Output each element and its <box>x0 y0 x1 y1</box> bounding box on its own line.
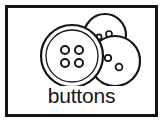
button-bottom-right-hole-2 <box>116 64 123 71</box>
button-large-left-hole-1 <box>61 46 69 54</box>
button-large-left-hole-2 <box>75 46 83 54</box>
card-frame: buttons <box>5 5 158 117</box>
button-large-left-body <box>41 25 103 86</box>
buttons-illustration <box>8 8 155 86</box>
button-large-left-hole-4 <box>75 59 83 67</box>
button-large-left-hole-3 <box>61 59 69 67</box>
button-large-left-icon <box>41 25 103 86</box>
button-bottom-right-hole-1 <box>105 55 111 61</box>
card-caption: buttons <box>8 84 155 108</box>
flashcard: buttons <box>0 0 166 125</box>
